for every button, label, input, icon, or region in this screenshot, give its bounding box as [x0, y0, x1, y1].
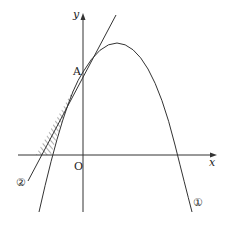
x-axis-label: x [209, 156, 216, 169]
tangent-line-2 [28, 15, 116, 181]
diagram: y x O A ① ② [0, 0, 229, 232]
y-axis-label: y [72, 8, 80, 21]
point-a-label: A [72, 65, 82, 78]
shaded-region [36, 83, 77, 155]
y-axis [81, 13, 86, 212]
parabola-curve-1 [39, 43, 192, 212]
origin-label: O [74, 160, 83, 173]
y-axis-arrow-icon [81, 13, 86, 20]
curve-2-label: ② [16, 176, 26, 189]
curve-1-label: ① [193, 196, 203, 209]
